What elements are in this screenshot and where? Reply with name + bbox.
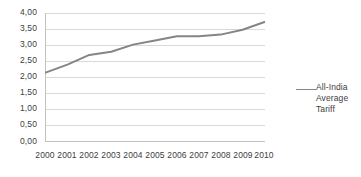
y-axis-tick-label: 4,00 [20,8,37,17]
legend-line-icon [296,85,316,94]
y-axis-tick-label: 2,00 [20,72,37,81]
line-chart: 4,00 3,50 3,00 2,50 2,00 1,50 1,00 0,50 … [0,0,361,177]
x-axis-tick-label: 2006 [167,150,186,160]
y-axis-tick-label: 0,00 [20,137,37,146]
plot-area [45,13,265,142]
y-axis-tick-label: 0,50 [20,120,37,129]
x-axis-tick-label: 2001 [57,150,76,160]
x-axis-tick-label: 2005 [145,150,164,160]
x-axis-tick-labels: 2000 2001 2002 2003 2004 2005 2006 2007 … [45,150,265,164]
y-axis-tick-label: 1,50 [20,88,37,97]
x-axis-tick-label: 2010 [254,150,273,160]
x-axis-tick-label: 2002 [79,150,98,160]
chart-legend: All-India Average Tariff [296,82,358,115]
x-axis-tick-label: 2008 [211,150,230,160]
x-axis-tick-label: 2003 [101,150,120,160]
y-axis-tick-label: 3,50 [20,24,37,33]
gridlines [45,14,265,126]
x-axis-tick-label: 2009 [233,150,252,160]
legend-item-label: All-India Average Tariff [316,82,358,115]
y-axis-tick-label: 3,00 [20,40,37,49]
y-axis-tick-label: 1,00 [20,104,37,113]
y-axis-tick-label: 2,50 [20,56,37,65]
x-axis-tick-label: 2000 [35,150,54,160]
x-axis-tick-label: 2007 [189,150,208,160]
x-axis-tick-label: 2004 [123,150,142,160]
plot-svg [45,13,265,142]
